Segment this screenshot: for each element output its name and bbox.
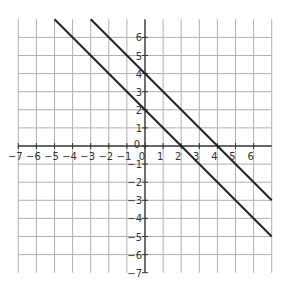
x-tick-label: −7: [8, 151, 23, 162]
x-tick-label: −2: [98, 151, 113, 162]
y-tick-label: 0: [134, 139, 140, 150]
x-tick-label: 1: [157, 151, 163, 162]
x-tick-label: −6: [26, 151, 41, 162]
y-tick-label: −1: [127, 159, 142, 170]
y-tick-label: −4: [127, 213, 142, 224]
x-tick-label: −3: [80, 151, 95, 162]
coordinate-plane: −7−6−5−4−3−2−10123456−7−6−5−4−3−2−101234…: [0, 0, 283, 290]
y-tick-label: −7: [127, 268, 142, 279]
axes: [18, 19, 271, 272]
y-tick-label: −5: [127, 232, 142, 243]
y-tick-label: −2: [127, 177, 142, 188]
y-tick-label: 5: [136, 51, 142, 62]
x-tick-label: 4: [211, 151, 217, 162]
x-tick-label: −4: [62, 151, 77, 162]
x-tick-label: −5: [44, 151, 59, 162]
y-tick-label: 6: [136, 32, 142, 43]
y-tick-label: −3: [127, 195, 142, 206]
y-tick-label: −6: [127, 250, 142, 261]
y-tick-label: 3: [136, 87, 142, 98]
x-tick-label: 6: [247, 151, 253, 162]
x-tick-label: 2: [175, 151, 181, 162]
y-tick-label: 1: [136, 123, 142, 134]
